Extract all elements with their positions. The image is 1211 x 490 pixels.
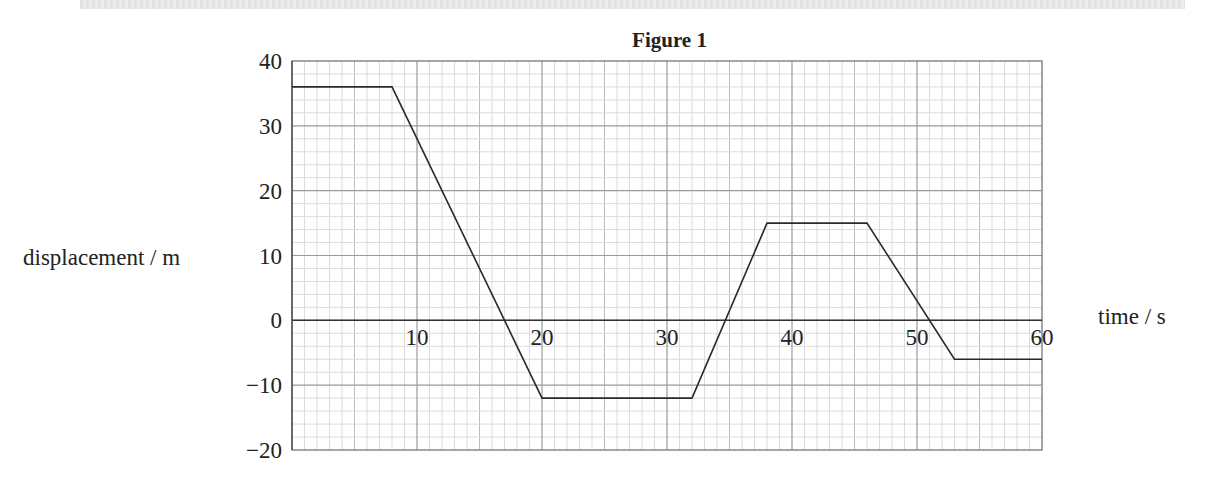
svg-text:0: 0: [271, 308, 283, 333]
svg-text:40: 40: [259, 49, 282, 74]
x-axis-label: time / s: [1098, 304, 1166, 330]
svg-text:30: 30: [656, 325, 679, 350]
svg-text:10: 10: [259, 244, 282, 269]
svg-text:−20: −20: [246, 438, 282, 463]
svg-text:−10: −10: [246, 373, 282, 398]
svg-text:30: 30: [259, 114, 282, 139]
svg-text:50: 50: [906, 325, 929, 350]
svg-text:10: 10: [406, 325, 429, 350]
svg-text:20: 20: [259, 179, 282, 204]
svg-text:40: 40: [781, 325, 804, 350]
y-axis-label: displacement / m: [23, 245, 180, 271]
svg-text:20: 20: [531, 325, 554, 350]
svg-text:60: 60: [1031, 325, 1054, 350]
chart-plot: 403020100−10−20102030405060: [0, 0, 1211, 490]
